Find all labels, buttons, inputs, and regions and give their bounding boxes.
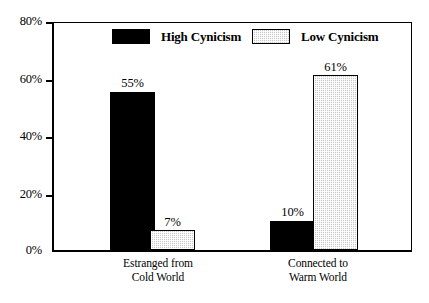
legend-label-low-cynicism: Low Cynicism xyxy=(301,29,378,44)
y-tick-label-80: 80% xyxy=(20,14,42,28)
bar-high-cynicism-connected: 10% xyxy=(270,221,315,250)
y-tick-label-60: 60% xyxy=(20,72,42,86)
legend-item-high-cynicism: High Cynicism xyxy=(112,29,241,44)
y-tick-mark-60 xyxy=(46,80,52,82)
bar-low-cynicism-estranged: 7% xyxy=(150,230,195,250)
legend-label-high-cynicism: High Cynicism xyxy=(161,29,241,44)
legend-swatch-high-cynicism xyxy=(112,29,150,44)
y-tick-label-40: 40% xyxy=(20,129,42,143)
y-tick-label-0: 0% xyxy=(26,243,42,257)
bar-value-high-cynicism-connected: 10% xyxy=(281,205,303,219)
y-tick-mark-40 xyxy=(46,137,52,139)
bar-low-cynicism-connected: 61% xyxy=(313,75,358,250)
bar-chart: High Cynicism Low Cynicism 55% 7% 10% 61… xyxy=(0,0,429,303)
y-tick-mark-80 xyxy=(46,22,52,24)
bar-high-cynicism-estranged: 55% xyxy=(110,92,155,250)
bar-value-low-cynicism-connected: 61% xyxy=(324,60,346,74)
category-label-estranged-line2: Cold World xyxy=(98,271,218,285)
bar-value-low-cynicism-estranged: 7% xyxy=(164,215,180,229)
legend-swatch-low-cynicism xyxy=(252,29,290,44)
category-label-estranged: Estranged from Cold World xyxy=(98,257,218,284)
legend-item-low-cynicism: Low Cynicism xyxy=(252,29,378,44)
bar-value-high-cynicism-estranged: 55% xyxy=(121,76,143,90)
y-tick-label-20: 20% xyxy=(20,187,42,201)
category-label-estranged-line1: Estranged from xyxy=(98,257,218,271)
y-tick-mark-20 xyxy=(46,195,52,197)
category-label-connected-line1: Connected to xyxy=(258,257,378,271)
plot-area: High Cynicism Low Cynicism 55% 7% 10% 61… xyxy=(52,22,412,252)
category-label-connected-line2: Warm World xyxy=(258,271,378,285)
category-label-connected: Connected to Warm World xyxy=(258,257,378,284)
